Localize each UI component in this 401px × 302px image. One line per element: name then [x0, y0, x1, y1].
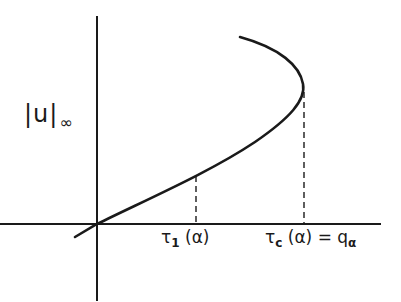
- tauc-label: τc (α) = qα: [265, 227, 356, 247]
- y-axis-label: |u|∞: [24, 100, 74, 128]
- y-axis-label-subscript: ∞: [59, 113, 73, 132]
- tau1-subscript: 1: [171, 236, 179, 250]
- y-axis-label-main: |u|: [24, 100, 58, 128]
- tauc-subscript: c: [275, 236, 282, 250]
- tauc-arg: (α) = q: [282, 227, 348, 247]
- q-subscript: α: [348, 236, 356, 250]
- tauc-symbol: τ: [265, 227, 275, 247]
- tau1-label: τ1 (α): [161, 227, 209, 247]
- tau1-symbol: τ: [161, 227, 171, 247]
- bifurcation-diagram: [0, 0, 401, 302]
- tau1-arg: (α): [180, 227, 210, 247]
- solution-curve: [75, 37, 303, 237]
